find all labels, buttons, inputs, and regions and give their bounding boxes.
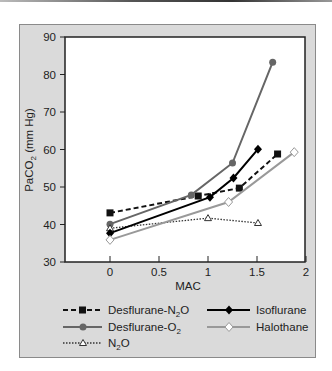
y-tick-label: 40 xyxy=(43,219,56,231)
y-axis-label: PaCO2 (mm Hg) xyxy=(23,108,38,192)
x-tick-label: 1.5 xyxy=(249,266,265,278)
square-marker-icon xyxy=(79,307,86,314)
y-tick-label: 50 xyxy=(43,181,56,193)
chart-svg: 30405060708090 00.511.52 MAC PaCO2 (mm H… xyxy=(0,0,332,371)
y-tick-label: 90 xyxy=(43,31,56,43)
x-tick-label: 0 xyxy=(107,266,113,278)
legend-item-desflurane-n2o: Desflurane-N2O xyxy=(63,304,189,319)
x-tick-label: 1 xyxy=(205,266,211,278)
legend-label: Desflurane-N2O xyxy=(108,304,189,319)
legend-label: Desflurane-O2 xyxy=(108,321,181,336)
legend-label: Isoflurane xyxy=(256,304,307,316)
diamond-marker-icon xyxy=(225,306,233,315)
open-diamond-marker-icon xyxy=(225,323,233,332)
y-axis: 30405060708090 xyxy=(43,31,65,268)
x-tick-label: 2 xyxy=(303,266,309,278)
y-tick-label: 60 xyxy=(43,144,56,156)
legend-item-halothane: Halothane xyxy=(207,321,308,333)
x-tick-label: 0.5 xyxy=(151,266,167,278)
y-tick-label: 80 xyxy=(43,69,56,81)
x-axis-label: MAC xyxy=(175,280,201,292)
legend-item-isoflurane: Isoflurane xyxy=(207,304,307,316)
y-tick-label: 30 xyxy=(43,256,56,268)
legend-label: Halothane xyxy=(256,321,308,333)
legend-item-desflurane-o2: Desflurane-O2 xyxy=(63,321,181,336)
legend-item-n2o: N2O xyxy=(63,337,130,352)
circle-marker-icon xyxy=(80,324,87,331)
legend: Desflurane-N2O Desflurane-O2 N2O Isoflur… xyxy=(63,304,308,352)
y-tick-label: 70 xyxy=(43,106,56,118)
legend-label: N2O xyxy=(108,337,130,352)
